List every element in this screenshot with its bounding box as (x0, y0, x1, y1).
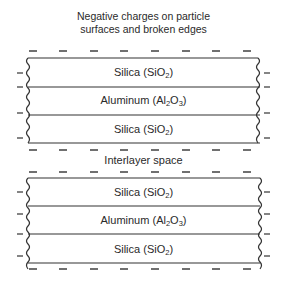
layer-label-aluminum-2: Aluminum (Al2O3) (0, 214, 287, 228)
layer-label-silica-1-bottom: Silica (SiO2) (0, 123, 287, 137)
layer-label-silica-2-top: Silica (SiO2) (0, 186, 287, 200)
layer-label-aluminum-1: Aluminum (Al2O3) (0, 94, 287, 108)
clay-layer-diagram (0, 0, 287, 284)
interlayer-space-label: Interlayer space (0, 154, 287, 166)
layer-label-silica-2-bottom: Silica (SiO2) (0, 243, 287, 257)
layer-label-silica-top: Silica (SiO2) (0, 66, 287, 80)
